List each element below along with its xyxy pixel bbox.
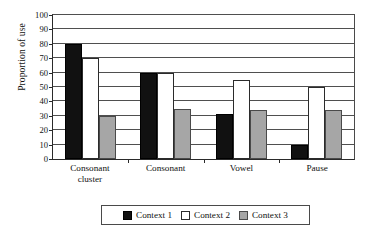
bar bbox=[65, 44, 82, 159]
bar-groups bbox=[53, 15, 354, 159]
bar-group bbox=[53, 15, 128, 159]
x-axis-label-line: Consonant bbox=[52, 163, 128, 174]
legend-item: Context 1 bbox=[123, 210, 172, 220]
bar bbox=[233, 80, 250, 159]
legend-label: Context 2 bbox=[194, 210, 230, 220]
x-axis-label: Consonantcluster bbox=[52, 163, 128, 185]
legend-swatch-icon bbox=[239, 211, 248, 220]
x-axis-label: Vowel bbox=[204, 163, 280, 185]
bar bbox=[250, 110, 267, 159]
bar bbox=[216, 114, 233, 159]
x-axis-label-line: Consonant bbox=[128, 163, 204, 174]
legend-label: Context 3 bbox=[252, 210, 288, 220]
bar bbox=[82, 58, 99, 159]
bar-chart-figure: Proportion of use 0102030405060708090100… bbox=[0, 0, 373, 236]
x-axis-tickmark bbox=[204, 159, 205, 163]
bar bbox=[174, 109, 191, 159]
x-axis-tickmark bbox=[128, 159, 129, 163]
x-axis-label-line: cluster bbox=[52, 174, 128, 185]
legend-swatch-icon bbox=[123, 211, 132, 220]
x-axis-label: Pause bbox=[279, 163, 355, 185]
bar bbox=[140, 73, 157, 159]
legend-item: Context 3 bbox=[239, 210, 288, 220]
legend-item: Context 2 bbox=[181, 210, 230, 220]
x-axis-label-line: Pause bbox=[279, 163, 355, 174]
bar bbox=[157, 73, 174, 159]
y-axis-title: Proportion of use bbox=[17, 0, 27, 117]
x-axis-label: Consonant bbox=[128, 163, 204, 185]
y-axis-tickmark bbox=[49, 159, 53, 160]
bar bbox=[325, 110, 342, 159]
bar bbox=[99, 116, 116, 159]
bar bbox=[308, 87, 325, 159]
bar-group bbox=[204, 15, 279, 159]
x-axis-label-line: Vowel bbox=[204, 163, 280, 174]
x-axis-labels: ConsonantclusterConsonantVowelPause bbox=[52, 163, 355, 185]
bar bbox=[291, 145, 308, 159]
legend-swatch-icon bbox=[181, 211, 190, 220]
x-axis-tickmark bbox=[279, 159, 280, 163]
chart-legend: Context 1Context 2Context 3 bbox=[101, 205, 310, 225]
legend-label: Context 1 bbox=[136, 210, 172, 220]
bar-group bbox=[279, 15, 354, 159]
bar-group bbox=[128, 15, 203, 159]
plot-area: 0102030405060708090100 bbox=[52, 14, 355, 160]
